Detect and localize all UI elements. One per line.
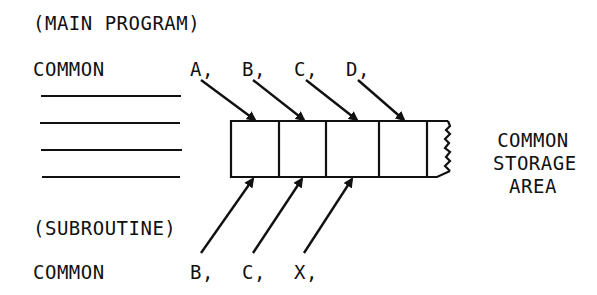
main-program-arrows [201, 80, 404, 120]
sub-common-keyword: COMMON [33, 263, 105, 282]
storage-outline [231, 121, 450, 177]
main-common-keyword: COMMON [33, 60, 105, 79]
arrow-B-sub [201, 179, 253, 253]
sub-var-C: C, [242, 263, 266, 282]
arrow-A [201, 80, 255, 120]
arrow-D [358, 80, 404, 120]
arrow-X-sub [304, 179, 352, 253]
program-lines [40, 96, 182, 177]
arrow-B [253, 80, 304, 120]
sub-var-X: X, [294, 263, 318, 282]
torn-edge [445, 121, 450, 171]
main-var-A: A, [190, 60, 214, 79]
main-var-D: D, [346, 60, 370, 79]
sub-var-B: B, [190, 263, 214, 282]
subroutine-arrows [201, 179, 352, 253]
main-program-heading: (MAIN PROGRAM) [33, 14, 200, 33]
storage-label-line3: AREA [493, 175, 573, 198]
storage-label-line1: COMMON [493, 129, 573, 152]
main-var-B: B, [242, 60, 266, 79]
storage-area [231, 121, 450, 177]
subroutine-heading: (SUBROUTINE) [33, 219, 176, 238]
main-var-C: C, [294, 60, 318, 79]
arrow-C-sub [253, 179, 302, 253]
storage-area-label: COMMON STORAGE AREA [493, 129, 573, 198]
arrow-C [306, 80, 357, 120]
storage-label-line2: STORAGE [493, 152, 573, 175]
